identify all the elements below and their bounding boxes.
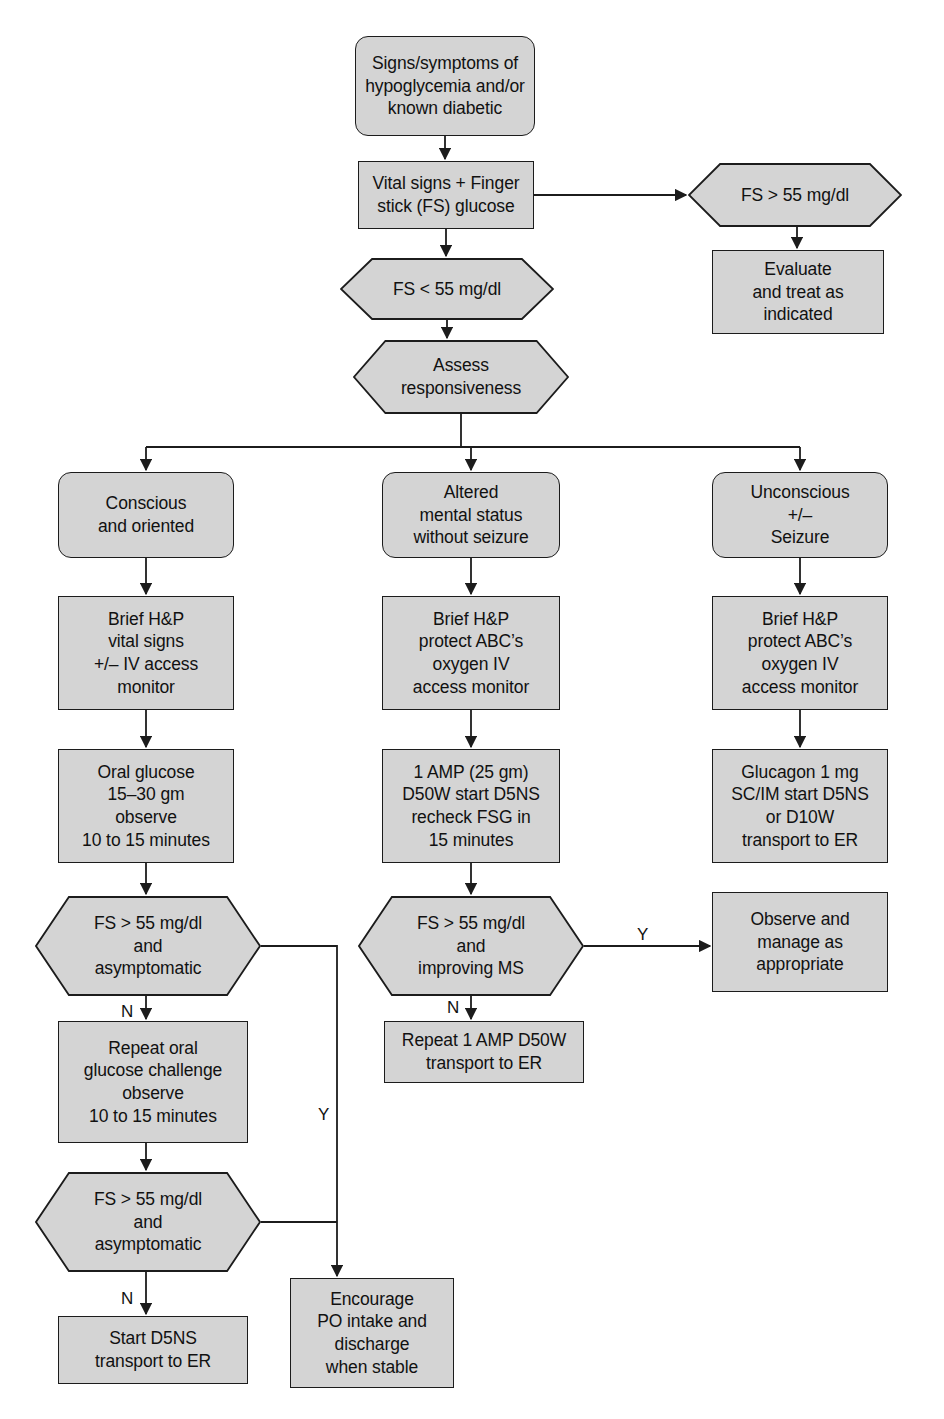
- flow-node-n21: FS > 55 mg/dl and asymptomatic: [35, 1172, 261, 1272]
- edge-label-n-1: N: [447, 999, 459, 1016]
- flowchart-canvas: Hypoglycemia Algorithm: [0, 0, 944, 1419]
- flow-node-n9: Unconscious +/– Seizure: [712, 472, 888, 558]
- flow-node-label: Glucagon 1 mg SC/IM start D5NS or D10W t…: [713, 761, 887, 852]
- flow-node-n20: Repeat oral glucose challenge observe 10…: [58, 1021, 248, 1143]
- flow-node-label: Brief H&P vital signs +/– IV access moni…: [59, 608, 233, 699]
- edge-label-y-0: Y: [637, 926, 648, 943]
- flow-node-n7: Conscious and oriented: [58, 472, 234, 558]
- flow-node-label: Assess responsiveness: [353, 354, 569, 400]
- edge-label-n-4: N: [121, 1290, 133, 1307]
- flow-node-label: 1 AMP (25 gm) D50W start D5NS recheck FS…: [383, 761, 559, 852]
- flow-node-n23: Encourage PO intake and discharge when s…: [290, 1278, 454, 1388]
- flow-node-n1: Signs/symptoms of hypoglycemia and/or kn…: [355, 36, 535, 136]
- flow-node-label: FS > 55 mg/dl and improving MS: [358, 912, 584, 980]
- flow-node-label: Brief H&P protect ABC’s oxygen IV access…: [713, 608, 887, 699]
- flow-node-n11: Brief H&P protect ABC’s oxygen IV access…: [382, 596, 560, 710]
- flow-node-n18: Observe and manage as appropriate: [712, 892, 888, 992]
- flow-node-n5: FS < 55 mg/dl: [340, 258, 554, 320]
- flow-node-label: Vital signs + Finger stick (FS) glucose: [359, 172, 533, 218]
- edge-label-n-2: N: [121, 1003, 133, 1020]
- flow-node-label: Brief H&P protect ABC’s oxygen IV access…: [383, 608, 559, 699]
- flow-node-n22: Start D5NS transport to ER: [58, 1316, 248, 1384]
- flow-node-n3: FS > 55 mg/dl: [688, 163, 902, 227]
- flow-node-n4: Evaluate and treat as indicated: [712, 250, 884, 334]
- flow-node-label: Start D5NS transport to ER: [59, 1327, 247, 1373]
- flow-node-label: Signs/symptoms of hypoglycemia and/or kn…: [356, 52, 534, 120]
- flow-node-label: Encourage PO intake and discharge when s…: [291, 1288, 453, 1379]
- flow-node-label: Repeat 1 AMP D50W transport to ER: [385, 1029, 583, 1075]
- flow-node-n13: Oral glucose 15–30 gm observe 10 to 15 m…: [58, 749, 234, 863]
- flow-node-n2: Vital signs + Finger stick (FS) glucose: [358, 161, 534, 229]
- edge-label-y-3: Y: [318, 1106, 329, 1123]
- flow-node-n15: Glucagon 1 mg SC/IM start D5NS or D10W t…: [712, 749, 888, 863]
- flow-node-label: Altered mental status without seizure: [383, 481, 559, 549]
- flow-node-label: FS < 55 mg/dl: [340, 278, 554, 301]
- flow-node-n8: Altered mental status without seizure: [382, 472, 560, 558]
- flow-node-label: Oral glucose 15–30 gm observe 10 to 15 m…: [59, 761, 233, 852]
- flow-node-n16: FS > 55 mg/dl and asymptomatic: [35, 896, 261, 996]
- flow-node-label: Repeat oral glucose challenge observe 10…: [59, 1037, 247, 1128]
- flow-node-n14: 1 AMP (25 gm) D50W start D5NS recheck FS…: [382, 749, 560, 863]
- flow-node-label: Conscious and oriented: [59, 492, 233, 538]
- node-layer: Signs/symptoms of hypoglycemia and/or kn…: [0, 0, 944, 1419]
- flow-node-label: FS > 55 mg/dl: [688, 184, 902, 207]
- flow-node-label: FS > 55 mg/dl and asymptomatic: [35, 1188, 261, 1256]
- flow-node-n17: FS > 55 mg/dl and improving MS: [358, 896, 584, 996]
- flow-node-label: Unconscious +/– Seizure: [713, 481, 887, 549]
- flow-node-label: FS > 55 mg/dl and asymptomatic: [35, 912, 261, 980]
- flow-node-n19: Repeat 1 AMP D50W transport to ER: [384, 1021, 584, 1083]
- flow-node-label: Observe and manage as appropriate: [713, 908, 887, 976]
- flow-node-n12: Brief H&P protect ABC’s oxygen IV access…: [712, 596, 888, 710]
- flow-node-n6: Assess responsiveness: [353, 340, 569, 414]
- flow-node-n10: Brief H&P vital signs +/– IV access moni…: [58, 596, 234, 710]
- flow-node-label: Evaluate and treat as indicated: [713, 258, 883, 326]
